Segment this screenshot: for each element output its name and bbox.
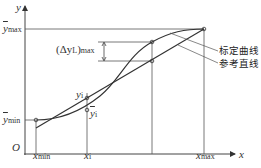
yi-label: yi xyxy=(76,89,83,100)
legend-reference-line: 参考直线 xyxy=(219,59,259,69)
origin-label: O xyxy=(12,142,20,153)
legend-calibration-curve: 标定曲线 xyxy=(219,46,259,56)
diagram-canvas xyxy=(0,0,261,168)
line-leader xyxy=(178,45,218,63)
xmin-label: xmin xyxy=(33,150,50,161)
ymin-label: ymin xyxy=(3,114,20,125)
ymax-label: ymax xyxy=(3,23,22,34)
delta-label: (ΔyL)max xyxy=(56,44,95,55)
y-axis-label: y xyxy=(16,2,21,13)
xi-label: xi xyxy=(84,150,91,161)
curve-leader xyxy=(170,33,218,51)
x-axis-label: x xyxy=(239,149,244,160)
xmax-label: xmax xyxy=(196,150,215,161)
ybar-i-label: yi xyxy=(90,108,97,119)
